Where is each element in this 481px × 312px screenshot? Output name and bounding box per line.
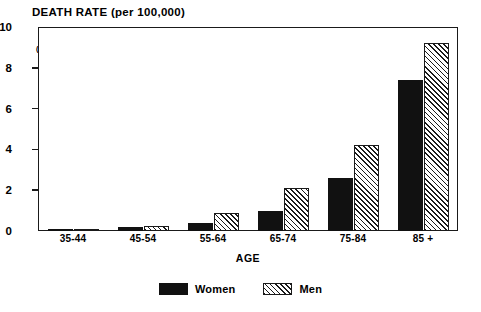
y-tick-label: 2	[6, 184, 12, 196]
legend-item-women[interactable]: Women	[159, 283, 236, 295]
bars-layer	[38, 27, 458, 231]
bar-women-85+	[398, 80, 423, 231]
x-axis-title: AGE	[236, 252, 260, 264]
y-axis: 0246810	[0, 0, 38, 312]
y-tick-label: 6	[6, 103, 12, 115]
bar-men-85+	[424, 43, 449, 231]
x-tick-label: 55-64	[200, 233, 227, 244]
y-tick-label: 8	[6, 62, 12, 74]
legend-item-men[interactable]: Men	[263, 283, 322, 295]
x-tick-label: 65-74	[270, 233, 297, 244]
chart-legend: WomenMen	[0, 283, 481, 295]
bar-men-7584	[354, 145, 379, 231]
x-axis: 35-4445-5455-6465-7475-8485 +	[38, 233, 458, 253]
bar-women-5564	[188, 223, 213, 231]
bar-women-4554	[118, 227, 143, 231]
bar-women-6574	[258, 211, 283, 231]
bar-women-7584	[328, 178, 353, 231]
bar-men-5564	[214, 213, 239, 231]
legend-label: Women	[195, 283, 236, 295]
bar-men-4554	[144, 226, 169, 231]
legend-swatch-icon	[263, 283, 292, 295]
bar-men-6574	[284, 188, 309, 231]
x-tick-label: 75-84	[340, 233, 367, 244]
y-tick-label: 0	[6, 225, 12, 237]
chart-figure: DEATH RATE (per 100,000) (thousands) 024…	[0, 0, 481, 312]
bar-men-3544	[74, 229, 99, 231]
bar-women-3544	[48, 229, 73, 231]
y-tick-label: 10	[0, 21, 12, 33]
y-tick-label: 4	[6, 143, 12, 155]
chart-title: DEATH RATE (per 100,000)	[32, 6, 185, 18]
x-tick-label: 35-44	[60, 233, 87, 244]
x-tick-label: 85 +	[413, 233, 434, 244]
legend-label: Men	[299, 283, 322, 295]
legend-swatch-icon	[159, 283, 188, 295]
x-tick-label: 45-54	[130, 233, 157, 244]
